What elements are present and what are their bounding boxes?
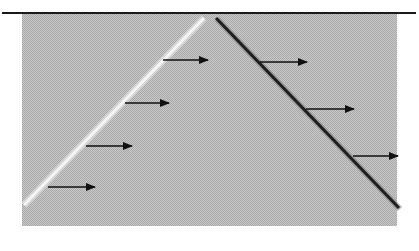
diagram-canvas — [0, 0, 419, 251]
shaded-region — [22, 14, 397, 226]
